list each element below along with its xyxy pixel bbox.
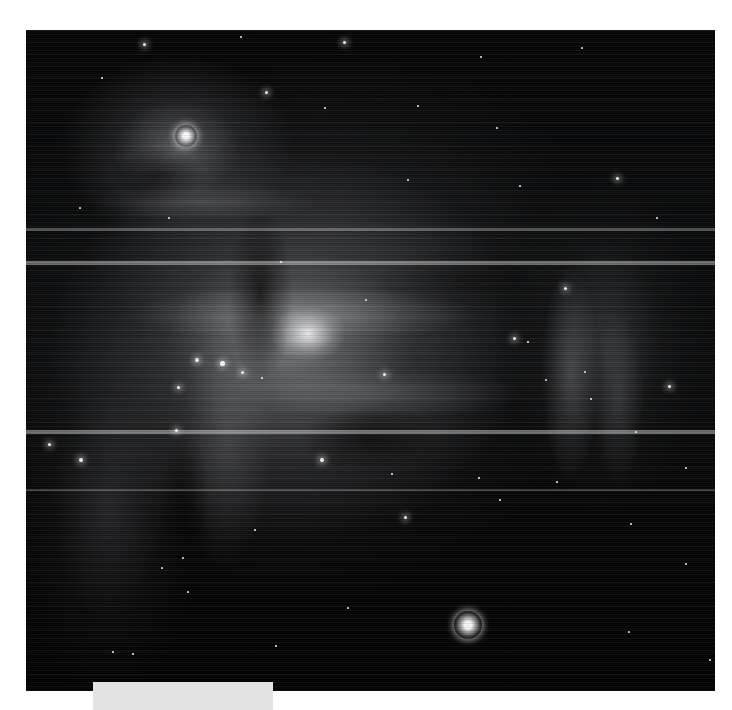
page-root (0, 0, 732, 710)
astronomical-image[interactable] (26, 30, 715, 691)
caption-text (93, 682, 273, 692)
caption-placeholder[interactable] (93, 682, 273, 710)
nebula-bright-core (233, 281, 383, 401)
